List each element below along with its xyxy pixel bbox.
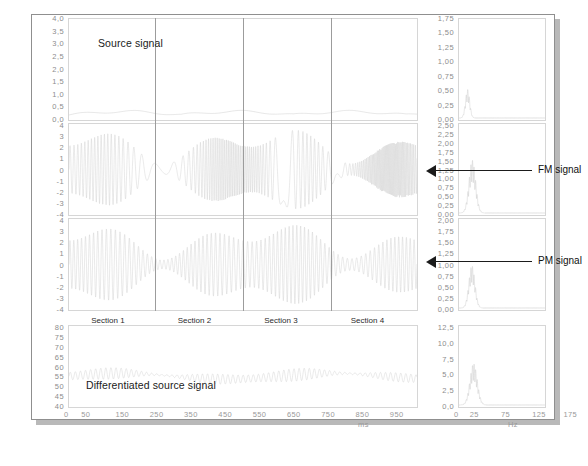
figure-canvas: 4,03,53,02,52,01,51,00,50,0 43210-1-2-3-… [32, 15, 554, 419]
y-axis-differentiated-spectrum: 12,510,07,55,02,50,0 [422, 313, 456, 408]
y-tick-label: 3 [59, 228, 64, 236]
y-tick-label: 0 [59, 262, 64, 270]
y-tick-label: 1,50 [438, 239, 454, 247]
y-tick-label: 2 [59, 239, 64, 247]
y-tick-label: 7,5 [442, 356, 454, 364]
pm-arrow-shaft [435, 261, 532, 262]
y-tick-label: 1,00 [438, 58, 454, 66]
x-axis-frequency-unit: Hz [508, 420, 518, 429]
y-tick-label: 1,25 [438, 44, 454, 52]
y-tick-label: 12,5 [438, 324, 454, 332]
panel-differentiated-spectrum[interactable] [458, 325, 546, 408]
y-tick-label: 0,75 [438, 73, 454, 81]
fm-arrow-shaft [435, 170, 532, 171]
y-tick-label: -3 [57, 295, 64, 303]
x-tick-label: 350 [184, 410, 198, 419]
fm-annotation: FM signal [426, 165, 586, 177]
y-tick-label: 75 [55, 334, 64, 342]
y-tick-label: 4 [59, 217, 64, 225]
y-tick-label: 3,0 [52, 40, 64, 48]
section-label: Section 1 [91, 316, 124, 325]
y-tick-label: -2 [57, 189, 64, 197]
y-tick-label: 0,50 [438, 284, 454, 292]
y-tick-label: 1,50 [438, 29, 454, 37]
y-tick-label: 60 [55, 364, 64, 372]
y-tick-label: 1,0 [52, 91, 64, 99]
source-spectrum-trace [459, 19, 545, 120]
section-label: Section 4 [351, 316, 384, 325]
y-tick-label: 0,5 [52, 103, 64, 111]
y-tick-label: 1,5 [52, 78, 64, 86]
y-tick-label: -1 [57, 178, 64, 186]
y-tick-label: 1,75 [438, 15, 454, 23]
y-tick-label: -2 [57, 284, 64, 292]
section-divider-1 [155, 18, 156, 311]
section-label: Section 2 [178, 316, 211, 325]
y-tick-label: 0,25 [438, 202, 454, 210]
y-tick-label: 55 [55, 373, 64, 381]
fm-annotation-label: FM signal [538, 164, 581, 175]
y-tick-label: 2,5 [52, 53, 64, 61]
y-tick-label: 1 [59, 250, 64, 258]
y-tick-label: 2,5 [442, 387, 454, 395]
differentiated-signal-label: Differentiated source signal [86, 379, 216, 391]
x-tick-label: 175 [563, 410, 577, 419]
pm-arrow-head-icon [426, 256, 436, 268]
x-tick-label: 750 [321, 410, 335, 419]
y-tick-label: 0,50 [438, 87, 454, 95]
y-tick-label: 1,75 [438, 149, 454, 157]
panel-differentiated-signal[interactable] [68, 325, 418, 408]
section-divider-3 [331, 18, 332, 311]
differentiated-signal-trace [69, 326, 417, 407]
y-tick-label: 65 [55, 354, 64, 362]
x-tick-label: 850 [356, 410, 370, 419]
x-axis-frequency: 02575125175225 [422, 410, 554, 422]
y-tick-label: 2,00 [438, 140, 454, 148]
x-tick-label: 550 [253, 410, 267, 419]
panel-source-spectrum[interactable] [458, 18, 546, 121]
y-axis-source-spectrum: 1,751,501,251,000,750,500,250,00 [422, 15, 456, 123]
x-tick-label: 75 [501, 410, 510, 419]
differentiated-spectrum-trace [459, 326, 545, 407]
fm-arrow-head-icon [426, 165, 436, 177]
y-tick-label: -1 [57, 273, 64, 281]
section-divider-2 [243, 18, 244, 311]
pm-annotation: PM signal [426, 256, 586, 268]
y-axis-pm-signal: 43210-1-2-3-4 [32, 218, 66, 313]
y-tick-label: 1,75 [438, 228, 454, 236]
x-tick-label: 25 [470, 410, 479, 419]
y-tick-label: 0,50 [438, 193, 454, 201]
y-tick-label: 50 [55, 383, 64, 391]
figure-paper: 4,03,53,02,52,01,51,00,50,0 43210-1-2-3-… [31, 14, 555, 420]
x-tick-label: 0 [454, 410, 459, 419]
section-label: Section 3 [264, 316, 297, 325]
y-tick-label: 0,25 [438, 295, 454, 303]
y-tick-label: 3 [59, 133, 64, 141]
y-axis-source-signal: 4,03,53,02,52,01,51,00,50,0 [32, 15, 66, 123]
time-domain-column: 4,03,53,02,52,01,51,00,50,0 43210-1-2-3-… [32, 15, 422, 419]
frequency-domain-column: 1,751,501,251,000,750,500,250,00 2,502,2… [422, 15, 554, 419]
pm-annotation-label: PM signal [538, 255, 582, 266]
y-tick-label: 4,0 [52, 15, 64, 23]
x-tick-label: 125 [532, 410, 546, 419]
y-tick-label: 2,50 [438, 122, 454, 130]
y-tick-label: 70 [55, 344, 64, 352]
x-tick-label: 650 [287, 410, 301, 419]
source-signal-label: Source signal [98, 37, 163, 49]
y-tick-label: 0,75 [438, 184, 454, 192]
y-tick-label: 0,75 [438, 273, 454, 281]
section-label-row: Section 1Section 2Section 3Section 4 [32, 314, 422, 328]
y-tick-label: 5,0 [442, 371, 454, 379]
x-axis-time-unit: ms [358, 420, 369, 429]
y-tick-label: 45 [55, 393, 64, 401]
y-tick-label: 2 [59, 144, 64, 152]
x-tick-label: 150 [115, 410, 129, 419]
y-tick-label: 0 [59, 167, 64, 175]
x-tick-label: 950 [390, 410, 404, 419]
y-tick-label: 1,50 [438, 158, 454, 166]
y-tick-label: 2,00 [438, 217, 454, 225]
x-tick-label: 50 [81, 410, 90, 419]
x-tick-label: 0 [64, 410, 69, 419]
y-tick-label: 4 [59, 122, 64, 130]
x-tick-label: 450 [218, 410, 232, 419]
